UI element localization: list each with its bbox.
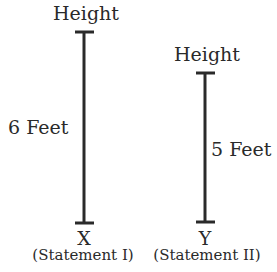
right-measure-label: 5 Feet: [211, 140, 271, 159]
right-caption: (Statement II): [153, 248, 260, 263]
right-height-bar: [0, 0, 277, 272]
